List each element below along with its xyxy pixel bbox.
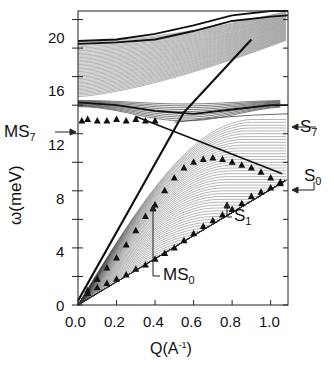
x-tick-0.2: 0.2	[104, 313, 125, 330]
label-s7: S7	[300, 117, 317, 138]
x-tick-0.6: 0.6	[181, 313, 202, 330]
dispersion-curves	[78, 11, 288, 305]
label-ms7: MS7	[4, 122, 36, 143]
label-s1: S1	[234, 206, 251, 227]
dispersion-plot	[0, 0, 334, 368]
x-tick-1.0: 1.0	[259, 313, 280, 330]
y-axis-label: ω(meV)	[6, 165, 26, 225]
x-tick-0.4: 0.4	[143, 313, 164, 330]
x-tick-0.0: 0.0	[65, 313, 86, 330]
y-tick-20: 20	[48, 29, 65, 46]
y-tick-4: 4	[56, 243, 64, 260]
y-tick-0: 0	[56, 297, 64, 314]
y-tick-8: 8	[56, 190, 64, 207]
y-tick-16: 16	[48, 82, 65, 99]
y-tick-12: 12	[48, 136, 65, 153]
x-tick-0.8: 0.8	[220, 313, 241, 330]
x-axis-label: Q(A-1)	[150, 340, 192, 358]
label-s0: S0	[304, 166, 321, 187]
label-ms0: MS0	[163, 265, 195, 286]
